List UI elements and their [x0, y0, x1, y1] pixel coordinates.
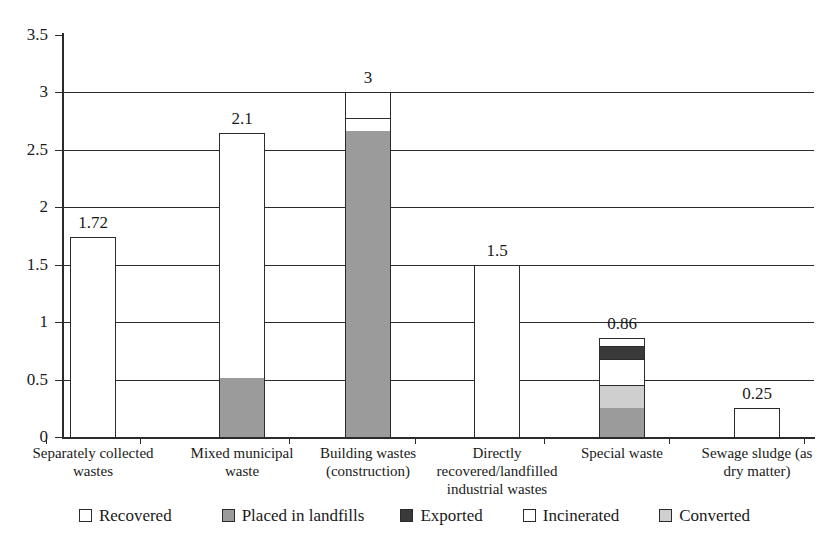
x-category-label-line: Sewage sludge (as — [682, 444, 829, 462]
legend-item[interactable]: Exported — [400, 507, 482, 524]
x-tick — [289, 437, 290, 444]
bar-segment[interactable] — [220, 378, 264, 438]
x-category-label: Separately collectedwastes — [9, 444, 177, 480]
waste-stacked-bar-chart: 00.511.522.533.5 Separately collectedwas… — [0, 0, 829, 548]
gridline-2 — [62, 207, 814, 208]
legend-swatch-icon — [523, 509, 536, 522]
bar-segment[interactable] — [600, 339, 644, 346]
legend-item[interactable]: Incinerated — [523, 507, 619, 524]
x-tick — [46, 437, 47, 444]
bar-value-label: 3 — [315, 69, 421, 86]
x-category-label-line: Separately collected — [9, 444, 177, 462]
bar[interactable] — [474, 265, 520, 437]
x-category-label: Special waste — [552, 444, 692, 462]
x-tick — [669, 437, 670, 444]
x-tick — [804, 437, 805, 444]
bar-segment[interactable] — [600, 408, 644, 438]
x-category-label-line: dry matter) — [682, 462, 829, 480]
y-tick-3.5 — [55, 35, 63, 36]
bar-segment[interactable] — [735, 409, 779, 429]
x-tick — [544, 437, 545, 444]
x-axis-line — [62, 437, 815, 439]
y-tick-0.5 — [55, 380, 63, 381]
bar-segment[interactable] — [346, 131, 390, 438]
y-tick-1 — [55, 322, 63, 323]
bar[interactable] — [345, 92, 391, 437]
bar-segment[interactable] — [71, 238, 115, 438]
y-tick-label-0: 0 — [0, 428, 48, 445]
x-tick — [140, 437, 141, 444]
bar-value-label: 1.5 — [444, 242, 550, 259]
legend-label: Exported — [420, 507, 482, 524]
y-tick-label-1.5: 1.5 — [0, 256, 48, 273]
y-axis-line — [62, 33, 64, 439]
y-tick-label-3: 3 — [0, 83, 48, 100]
bar-segment[interactable] — [346, 93, 390, 117]
gridline-2.5 — [62, 150, 814, 151]
bar-value-label: 2.1 — [189, 110, 295, 127]
chart-legend: RecoveredPlaced in landfillsExportedInci… — [0, 502, 829, 528]
bar-segment[interactable] — [475, 266, 519, 418]
gridline-3 — [62, 92, 814, 93]
y-tick-label-2.5: 2.5 — [0, 141, 48, 158]
y-tick-label-3.5: 3.5 — [0, 26, 48, 43]
legend-label: Converted — [679, 507, 750, 524]
y-tick-label-2: 2 — [0, 198, 48, 215]
bar-value-label: 0.86 — [569, 315, 675, 332]
legend-item[interactable]: Placed in landfills — [222, 507, 365, 524]
gridline-1 — [62, 322, 814, 323]
bar-segment[interactable] — [600, 359, 644, 385]
bar-segment[interactable] — [475, 417, 519, 438]
x-category-label-line: recovered/landfilled — [407, 462, 587, 480]
bar-value-label: 1.72 — [40, 214, 146, 231]
x-category-label-line: wastes — [9, 462, 177, 480]
bar[interactable] — [219, 133, 265, 437]
y-tick-label-0.5: 0.5 — [0, 371, 48, 388]
bar-segment[interactable] — [346, 118, 390, 132]
legend-swatch-icon — [659, 509, 672, 522]
legend-label: Placed in landfills — [242, 507, 365, 524]
y-tick-label-1: 1 — [0, 313, 48, 330]
legend-label: Incinerated — [543, 507, 619, 524]
gridline-1.5 — [62, 265, 814, 266]
x-category-label-line: industrial wastes — [407, 480, 587, 498]
bar[interactable] — [70, 237, 116, 437]
bar-value-label: 0.25 — [704, 385, 810, 402]
y-tick-2.5 — [55, 150, 63, 151]
bar-segment[interactable] — [220, 134, 264, 379]
x-tick — [415, 437, 416, 444]
x-category-label: Sewage sludge (asdry matter) — [682, 444, 829, 480]
bar[interactable] — [734, 408, 780, 437]
legend-item[interactable]: Recovered — [79, 507, 172, 524]
y-tick-3 — [55, 92, 63, 93]
gridline-0.5 — [62, 380, 814, 381]
y-tick-1.5 — [55, 265, 63, 266]
legend-label: Recovered — [99, 507, 172, 524]
x-category-label-line: Special waste — [552, 444, 692, 462]
legend-item[interactable]: Converted — [659, 507, 750, 524]
legend-swatch-icon — [222, 509, 235, 522]
legend-swatch-icon — [79, 509, 92, 522]
bar-segment[interactable] — [600, 346, 644, 359]
y-tick-2 — [55, 207, 63, 208]
bar[interactable] — [599, 338, 645, 437]
legend-swatch-icon — [400, 509, 413, 522]
bar-segment[interactable] — [600, 385, 644, 408]
